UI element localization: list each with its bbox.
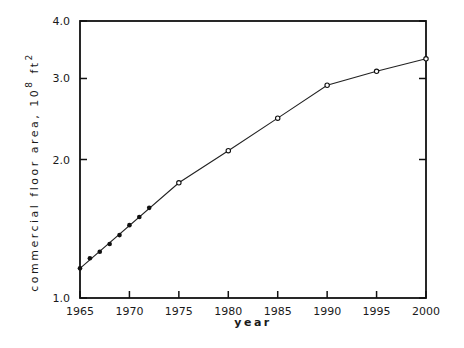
x-axis-ticks: 19651970197519801985199019952000 xyxy=(66,291,440,318)
data-point-filled xyxy=(117,233,122,238)
data-point-open xyxy=(424,57,428,61)
x-axis-title: year xyxy=(234,316,271,329)
data-point-filled xyxy=(127,223,132,228)
data-point-filled xyxy=(88,256,93,261)
data-point-open xyxy=(374,69,378,73)
plot-frame xyxy=(80,21,426,298)
y-axis-ticks: 1.02.03.04.0 xyxy=(53,15,427,305)
data-line xyxy=(80,59,426,269)
y-axis-title: commercial floor area, 108 ft2 xyxy=(24,52,41,292)
x-tick-label: 1995 xyxy=(363,305,391,318)
y-tick-label: 1.0 xyxy=(53,292,71,305)
x-tick-label: 1970 xyxy=(115,305,143,318)
plot-border xyxy=(80,21,426,298)
x-tick-label: 1965 xyxy=(66,305,94,318)
data-point-filled xyxy=(137,215,142,220)
data-point-open xyxy=(226,149,230,153)
x-tick-label: 1975 xyxy=(165,305,193,318)
data-point-open xyxy=(325,83,329,87)
data-point-open xyxy=(177,181,181,185)
chart: 1.02.03.04.0 196519701975198019851990199… xyxy=(0,0,464,348)
data-point-filled xyxy=(107,242,112,247)
y-tick-label: 4.0 xyxy=(53,15,71,28)
x-tick-label: 1990 xyxy=(313,305,341,318)
data-point-filled xyxy=(147,206,152,211)
data-markers xyxy=(78,57,429,271)
data-point-open xyxy=(276,116,280,120)
x-tick-label: 2000 xyxy=(412,305,440,318)
trend-line xyxy=(80,59,426,269)
y-tick-label: 2.0 xyxy=(53,154,71,167)
y-tick-label: 3.0 xyxy=(53,72,71,85)
data-point-filled xyxy=(78,266,83,271)
data-point-filled xyxy=(97,250,102,255)
